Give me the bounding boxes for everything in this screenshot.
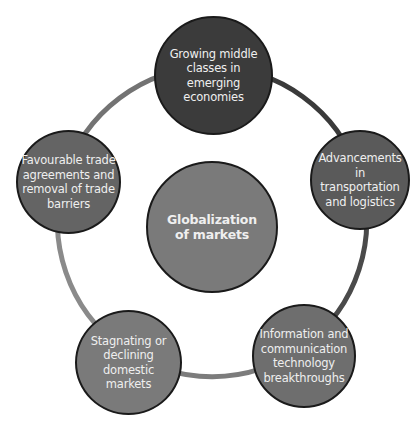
node-label-line: removal of trade	[21, 182, 115, 197]
node-label-line: barriers	[21, 197, 115, 212]
node-advancements-transportation: Advancements in transportation and logis…	[310, 130, 410, 230]
node-label-line: Growing middle	[170, 47, 258, 62]
node-label-line: classes in	[170, 61, 258, 76]
center-label-line: of markets	[167, 227, 257, 243]
node-label-line: Stagnating or	[91, 334, 167, 349]
node-favourable-trade: Favourable trade agreements and removal …	[16, 130, 121, 234]
node-label-line: emerging	[170, 76, 258, 91]
node-label-line: Favourable trade	[21, 153, 115, 168]
node-label-line: technology	[260, 356, 349, 371]
node-label-line: breakthroughs	[260, 371, 349, 386]
node-ict-breakthroughs: Information and communication technology…	[252, 304, 356, 408]
center-label-line: Globalization	[167, 212, 257, 228]
node-growing-middle-classes: Growing middle classes in emerging econo…	[154, 16, 273, 135]
node-label-line: domestic	[91, 363, 167, 378]
node-label-line: declining	[91, 348, 167, 363]
node-label-line: agreements and	[21, 168, 115, 183]
node-label-line: communication	[260, 342, 349, 357]
node-label-line: economies	[170, 90, 258, 105]
node-label-line: Information and	[260, 327, 349, 342]
node-label-line: transportation	[312, 180, 408, 195]
center-node-globalization: Globalization of markets	[146, 161, 278, 293]
node-stagnating-domestic: Stagnating or declining domestic markets	[75, 310, 182, 415]
node-label-line: markets	[91, 377, 167, 392]
node-label-line: and logistics	[312, 195, 408, 210]
node-label-line: Advancements in	[312, 151, 408, 180]
